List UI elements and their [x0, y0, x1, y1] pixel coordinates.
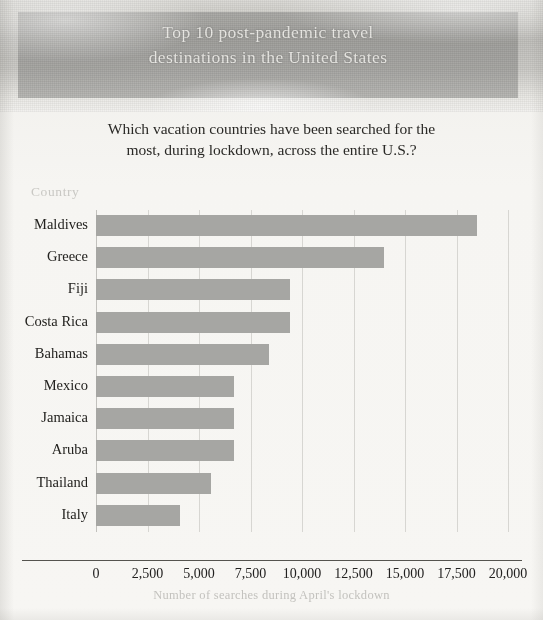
- category-label: Fiji: [68, 280, 88, 297]
- category-label: Aruba: [52, 441, 88, 458]
- plot-area: MaldivesGreeceFijiCosta RicaBahamasMexic…: [96, 210, 508, 532]
- category-label: Italy: [61, 506, 88, 523]
- bar: [96, 408, 234, 429]
- bar-rows: MaldivesGreeceFijiCosta RicaBahamasMexic…: [96, 210, 508, 532]
- bar: [96, 344, 269, 365]
- category-label: Bahamas: [35, 345, 88, 362]
- x-tick-label: 7,500: [235, 566, 267, 582]
- bar-row: Maldives: [96, 210, 508, 242]
- bar-row: Aruba: [96, 435, 508, 467]
- bar-row: Jamaica: [96, 403, 508, 435]
- hero-photo-banner: Top 10 post-pandemic travel destinations…: [0, 0, 543, 112]
- y-axis-title: Country: [31, 184, 79, 200]
- x-tick-label: 15,000: [386, 566, 425, 582]
- x-tick-label: 10,000: [283, 566, 322, 582]
- x-tick-label: 20,000: [489, 566, 528, 582]
- bar: [96, 247, 384, 268]
- page-title: Top 10 post-pandemic travel destinations…: [18, 20, 518, 70]
- bar: [96, 215, 477, 236]
- category-label: Greece: [47, 248, 88, 265]
- x-tick-label: 5,000: [183, 566, 215, 582]
- x-axis-title: Number of searches during April's lockdo…: [0, 588, 543, 603]
- page-subtitle-line-1: Which vacation countries have been searc…: [60, 118, 483, 139]
- bar: [96, 376, 234, 397]
- poster-infographic: Top 10 post-pandemic travel destinations…: [0, 0, 543, 620]
- x-axis-tick-labels: 02,5005,0007,50010,00012,50015,00017,500…: [96, 566, 508, 586]
- page-title-line-2: destinations in the United States: [18, 45, 518, 70]
- gridline-20000: [508, 210, 509, 532]
- bar-row: Bahamas: [96, 339, 508, 371]
- page-subtitle-line-2: most, during lockdown, across the entire…: [60, 139, 483, 160]
- page-title-line-1: Top 10 post-pandemic travel: [18, 20, 518, 45]
- bar-row: Fiji: [96, 274, 508, 306]
- x-tick-label: 0: [93, 566, 100, 582]
- bar: [96, 473, 211, 494]
- x-tick-label: 2,500: [132, 566, 164, 582]
- bar-row: Greece: [96, 242, 508, 274]
- category-label: Maldives: [34, 216, 88, 233]
- x-tick-label: 17,500: [437, 566, 476, 582]
- bar: [96, 312, 290, 333]
- bar-row: Italy: [96, 500, 508, 532]
- category-label: Jamaica: [41, 409, 88, 426]
- category-label: Mexico: [44, 377, 88, 394]
- page-subtitle: Which vacation countries have been searc…: [60, 118, 483, 160]
- bar-chart: Country MaldivesGreeceFijiCosta RicaBaha…: [0, 176, 543, 620]
- category-label: Costa Rica: [25, 313, 88, 330]
- x-axis-line: [22, 560, 522, 561]
- bar-row: Thailand: [96, 468, 508, 500]
- bar: [96, 279, 290, 300]
- bar-row: Mexico: [96, 371, 508, 403]
- category-label: Thailand: [36, 474, 88, 491]
- bar: [96, 440, 234, 461]
- bar: [96, 505, 180, 526]
- x-tick-label: 12,500: [334, 566, 373, 582]
- bar-row: Costa Rica: [96, 307, 508, 339]
